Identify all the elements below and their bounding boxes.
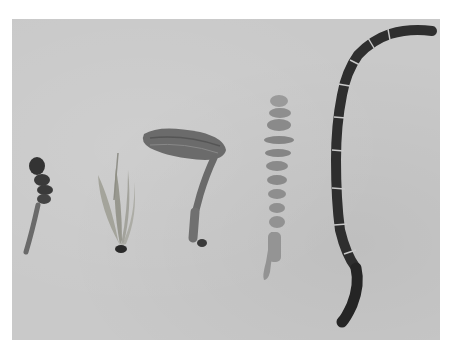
specimen-5-filiform-antenna [332, 29, 432, 322]
specimens-layer [0, 0, 456, 353]
specimen-1-lamellate-antenna [26, 157, 53, 252]
specimen-2-plumose-antenna [98, 153, 135, 253]
specimen-3-club-antenna [143, 128, 226, 247]
specimen-4-serrate-antenna [263, 95, 294, 280]
